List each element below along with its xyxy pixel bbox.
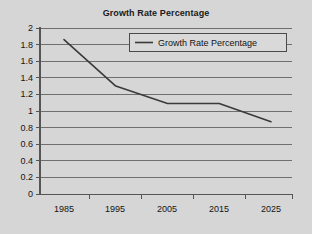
y-axis-label: 0.8	[20, 123, 33, 133]
y-axis-label: 1	[28, 106, 33, 116]
x-axis-label: 1995	[105, 204, 125, 214]
y-axis-label: 0.6	[20, 139, 33, 149]
x-axis-label: 1985	[54, 204, 74, 214]
chart-container: Growth Rate Percentage	[0, 0, 312, 234]
x-axis-label: 2025	[261, 204, 281, 214]
y-axis-label: 1.8	[20, 40, 33, 50]
y-axis-label: 1.2	[20, 89, 33, 99]
x-axis-labels: 1985 1995 2005 2015 2025	[54, 204, 281, 214]
x-axis-label: 2005	[157, 204, 177, 214]
x-axis-label: 2015	[209, 204, 229, 214]
legend-entry-label: Growth Rate Percentage	[158, 38, 257, 48]
y-axis-label: 2	[28, 23, 33, 33]
y-axis-label: 1.4	[20, 73, 33, 83]
chart-legend[interactable]: Growth Rate Percentage	[130, 34, 287, 52]
y-axis-labels: 2 1.8 1.6 1.4 1.2 1 0.8 0.6 0.4 0.2 0	[20, 23, 33, 199]
chart-svg: 2 1.8 1.6 1.4 1.2 1 0.8 0.6 0.4 0.2 0 19…	[0, 0, 312, 234]
y-axis-label: 1.6	[20, 56, 33, 66]
y-axis-label: 0	[28, 189, 33, 199]
y-axis-label: 0.4	[20, 156, 33, 166]
y-axis-label: 0.2	[20, 172, 33, 182]
